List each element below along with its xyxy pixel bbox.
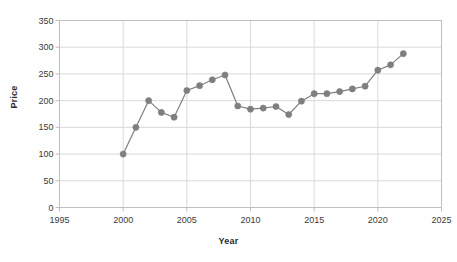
data-point-marker xyxy=(273,103,279,109)
data-point-marker xyxy=(337,88,343,94)
data-point-marker xyxy=(196,83,202,89)
data-point-marker xyxy=(298,98,304,104)
price-vs-year-line-chart: Price Year 050100150200250300350 1995200… xyxy=(0,0,457,262)
data-point-marker xyxy=(222,72,228,78)
data-point-marker xyxy=(324,91,330,97)
data-point-marker xyxy=(171,114,177,120)
data-line-price xyxy=(123,54,403,154)
data-point-marker xyxy=(311,91,317,97)
data-point-markers xyxy=(120,51,406,158)
data-point-marker xyxy=(133,124,139,130)
data-point-marker xyxy=(286,111,292,117)
grid-lines xyxy=(60,21,442,208)
data-point-marker xyxy=(375,67,381,73)
data-point-marker xyxy=(184,87,190,93)
data-point-marker xyxy=(235,103,241,109)
data-point-marker xyxy=(362,83,368,89)
data-point-marker xyxy=(260,105,266,111)
plot-area xyxy=(0,0,457,262)
data-point-marker xyxy=(400,51,406,57)
data-point-marker xyxy=(146,98,152,104)
data-point-marker xyxy=(209,77,215,83)
data-point-marker xyxy=(349,86,355,92)
data-point-marker xyxy=(387,62,393,68)
data-point-marker xyxy=(120,151,126,157)
data-point-marker xyxy=(158,109,164,115)
data-point-marker xyxy=(247,106,253,112)
